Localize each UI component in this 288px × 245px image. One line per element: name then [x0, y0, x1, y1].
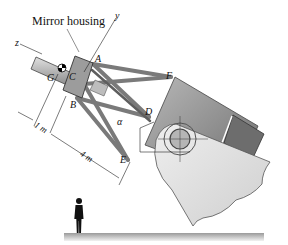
point-g-label: G: [47, 72, 54, 83]
leader-line: [67, 29, 79, 52]
diagram-canvas: Mirror housing y z A C G B F D E α 1 m 4…: [0, 0, 288, 245]
y-axis-label: y: [114, 10, 120, 21]
z-axis: [20, 44, 42, 54]
telescope-diagram: Mirror housing y z A C G B F D E α 1 m 4…: [0, 0, 288, 245]
point-b-label: B: [70, 99, 76, 110]
mirror-housing-label: Mirror housing: [32, 14, 105, 28]
point-f-label: F: [165, 70, 173, 81]
center-of-gravity-icon: [58, 64, 66, 72]
point-c-label: C: [69, 71, 76, 82]
point-d-label: D: [144, 106, 153, 117]
dimension-1m-label: 1 m: [33, 120, 50, 136]
person-silhouette: [74, 198, 83, 233]
ground: [64, 233, 264, 241]
point-e-label: E: [119, 154, 126, 165]
angle-alpha-label: α: [117, 116, 123, 127]
dimension-4m-label: 4 m: [78, 149, 95, 165]
z-axis-label: z: [14, 37, 19, 48]
point-a-label: A: [94, 53, 102, 64]
